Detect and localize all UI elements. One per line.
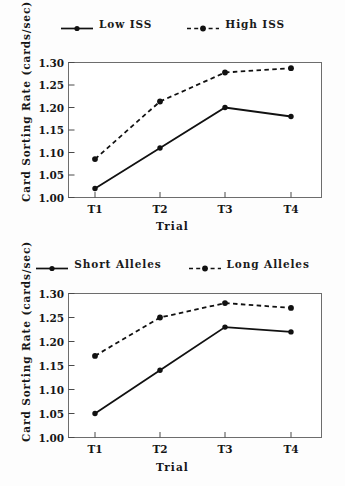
x-tick-label: T4 — [283, 443, 298, 455]
data-point — [222, 324, 227, 329]
y-tick-label: 1.20 — [38, 336, 64, 348]
x-tick-label: T3 — [217, 203, 232, 215]
data-point — [288, 305, 294, 311]
x-tick-label: T4 — [283, 203, 298, 215]
plot-area-bottom: 1.30 1.25 1.20 1.15 1.10 1.05 1.00 T1 T2… — [0, 243, 345, 486]
plot-area-top: 1.30 1.25 1.20 1.15 1.10 1.05 1.00 T1 T2… — [0, 0, 345, 243]
x-axis-title-top: Trial — [0, 220, 345, 232]
x-tick-labels-bottom: T1 T2 T3 T4 — [87, 443, 298, 455]
plot-frame-top — [69, 63, 322, 198]
y-tick-label: 1.15 — [38, 124, 64, 136]
y-tick-label: 1.00 — [38, 432, 64, 444]
y-axis-title-bottom: Card Sorting Rate (cards/sec) — [20, 241, 32, 442]
y-axis-title-top: Card Sorting Rate (cards/sec) — [20, 1, 32, 202]
y-tick-label: 1.25 — [38, 312, 64, 324]
x-tick-label: T2 — [152, 203, 167, 215]
x-tick-label: T1 — [87, 443, 102, 455]
data-point — [222, 300, 228, 306]
y-tick-labels-top: 1.30 1.25 1.20 1.15 1.10 1.05 1.00 — [38, 57, 64, 204]
data-point — [157, 145, 162, 150]
chart-panel-bottom: Short Alleles Long Alleles — [0, 243, 345, 486]
x-axis-title-bottom: Trial — [0, 461, 345, 473]
y-tick-label: 1.25 — [38, 79, 64, 91]
data-point — [222, 70, 228, 76]
y-tick-label: 1.10 — [38, 147, 64, 159]
data-point — [92, 156, 98, 162]
y-tick-label: 1.30 — [38, 288, 64, 300]
data-point — [157, 368, 162, 373]
y-tick-label: 1.20 — [38, 102, 64, 114]
data-point — [92, 186, 97, 191]
y-tick-label: 1.05 — [38, 169, 64, 181]
y-tick-label: 1.05 — [38, 408, 64, 420]
data-point — [288, 65, 294, 71]
y-tick-labels-bottom: 1.30 1.25 1.20 1.15 1.10 1.05 1.00 — [38, 288, 64, 444]
data-point — [157, 315, 163, 321]
x-tick-label: T1 — [87, 203, 102, 215]
y-tick-label: 1.15 — [38, 360, 64, 372]
data-point — [157, 99, 163, 105]
x-tick-label: T2 — [152, 443, 167, 455]
data-point — [222, 105, 227, 110]
data-point — [288, 114, 293, 119]
y-tick-label: 1.30 — [38, 57, 64, 69]
data-point — [92, 411, 97, 416]
x-tick-labels-top: T1 T2 T3 T4 — [87, 203, 298, 215]
data-point — [288, 329, 293, 334]
data-point — [92, 353, 98, 359]
plot-frame-bottom — [69, 294, 322, 438]
y-tick-label: 1.00 — [38, 192, 64, 204]
chart-panel-top: Low ISS High ISS — [0, 0, 345, 243]
y-tick-label: 1.10 — [38, 384, 64, 396]
x-tick-label: T3 — [217, 443, 232, 455]
